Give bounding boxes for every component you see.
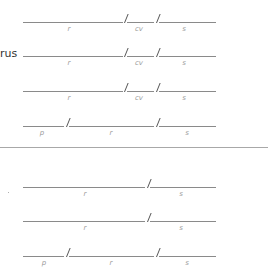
segment-label: r: [84, 224, 87, 232]
segment-label: r: [68, 59, 71, 67]
blank-row-7: p r s: [0, 246, 268, 266]
blank-row-6: r s: [0, 211, 268, 231]
blank-line-s[interactable]: [150, 221, 216, 222]
blank-line-cv[interactable]: [127, 22, 154, 23]
blank-line-cv[interactable]: [127, 91, 154, 92]
segment-label: s: [182, 59, 186, 67]
segment-label: r: [84, 190, 87, 198]
blank-row-3: r cv s: [0, 81, 268, 101]
blank-line-s[interactable]: [159, 256, 216, 257]
blank-line-s[interactable]: [159, 22, 216, 23]
blank-line-r[interactable]: [23, 221, 145, 222]
segment-label: s: [179, 224, 183, 232]
segment-label: cv: [135, 59, 143, 67]
blank-row-2: rus r cv s: [0, 46, 268, 66]
blank-line-r[interactable]: [23, 187, 145, 188]
blank-line-r[interactable]: [69, 256, 154, 257]
blank-line-r[interactable]: [23, 91, 123, 92]
blank-row-5: r s: [0, 177, 268, 197]
segment-label: p: [42, 259, 46, 267]
bullet-dot-icon: [8, 192, 9, 193]
blank-line-s[interactable]: [159, 91, 216, 92]
blank-line-r[interactable]: [23, 56, 123, 57]
blank-line-p[interactable]: [23, 126, 64, 127]
segment-label: s: [185, 129, 189, 137]
segment-label: cv: [135, 94, 143, 102]
segment-label: s: [185, 259, 189, 267]
blank-line-r[interactable]: [69, 126, 154, 127]
segment-label: r: [68, 25, 71, 33]
segment-label: p: [40, 129, 44, 137]
row-prefix-word: rus: [0, 48, 17, 60]
section-divider: [0, 147, 268, 148]
blank-line-p[interactable]: [23, 256, 64, 257]
blank-row-1: r cv s: [0, 12, 268, 32]
segment-label: r: [110, 129, 113, 137]
segment-label: s: [182, 25, 186, 33]
blank-row-4: p r s: [0, 116, 268, 136]
blank-line-s[interactable]: [159, 126, 216, 127]
blank-line-r[interactable]: [23, 22, 123, 23]
segment-label: cv: [135, 25, 143, 33]
blank-line-cv[interactable]: [127, 56, 154, 57]
segment-label: s: [179, 190, 183, 198]
segment-label: s: [182, 94, 186, 102]
segment-label: r: [110, 259, 113, 267]
blank-line-s[interactable]: [150, 187, 216, 188]
blank-line-s[interactable]: [159, 56, 216, 57]
segment-label: r: [68, 94, 71, 102]
